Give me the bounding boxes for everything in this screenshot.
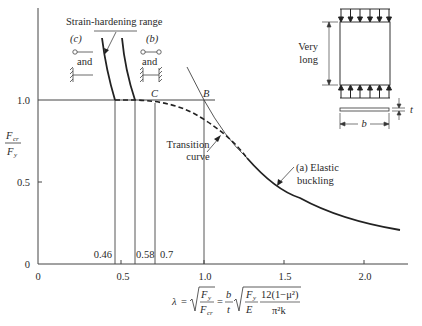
case-c-label: (c) — [70, 33, 82, 45]
x-tick-label-2: 2.0 — [358, 271, 371, 282]
svg-text:F: F — [6, 146, 14, 157]
case-c-and: and — [77, 56, 93, 67]
svg-text:y: y — [13, 151, 18, 159]
transition-label-line2: curve — [186, 151, 210, 162]
width-label: b — [361, 118, 366, 129]
marker-label-0-46: 0.46 — [94, 249, 112, 260]
y-tick-label-1: 1.0 — [17, 95, 30, 106]
x-tick-label-1-5: 1.5 — [278, 271, 291, 282]
svg-text:F: F — [200, 289, 208, 300]
elastic-label-line2: buckling — [297, 175, 334, 186]
y-tick-label-0: 0 — [25, 259, 30, 270]
svg-text:E: E — [245, 304, 253, 315]
load-arrows-top-icon — [339, 9, 392, 22]
svg-text:π²k: π²k — [272, 305, 286, 316]
elastic-label-line1: (a) Elastic — [296, 162, 339, 174]
svg-text:12(1−μ²): 12(1−μ²) — [261, 289, 299, 301]
svg-text:F: F — [245, 289, 253, 300]
x-tick-label-1: 1.0 — [198, 271, 211, 282]
svg-text:λ: λ — [171, 296, 177, 307]
case-b-and: and — [142, 56, 158, 67]
x-tick-label-0: 0 — [35, 271, 40, 282]
transition-label-line1: Transition — [167, 139, 211, 150]
svg-text:F: F — [5, 130, 13, 141]
x-axis-formula: λ = F y F cr = b t F y E 12(1−μ²) π²k — [171, 287, 301, 317]
svg-text:t: t — [227, 304, 231, 315]
svg-text:cr: cr — [13, 135, 19, 143]
length-dimension — [322, 22, 338, 85]
svg-text:y: y — [252, 294, 257, 302]
strain-hardening-label: Strain-hardening range — [66, 16, 163, 27]
marker-label-0-7: 0.7 — [160, 249, 173, 260]
marker-label-0-58: 0.58 — [136, 249, 154, 260]
strain-hardening-arrow — [106, 32, 116, 52]
case-b-label: (b) — [146, 33, 159, 45]
strain-hardening-curve-b — [122, 38, 135, 100]
point-c-label: C — [151, 88, 159, 99]
thickness-label: t — [410, 104, 414, 115]
arrow-head-icon — [214, 135, 221, 142]
y-axis-label: F cr F y — [5, 130, 21, 159]
load-arrows-bottom-icon — [339, 85, 392, 98]
elastic-arrow — [279, 167, 294, 183]
svg-text:cr: cr — [207, 309, 213, 317]
length-label-line1: Very — [298, 41, 319, 52]
svg-text:F: F — [199, 304, 207, 315]
x-tick-label-0-5: 0.5 — [116, 271, 129, 282]
svg-text:=: = — [217, 296, 223, 307]
thickness-dimension — [392, 98, 405, 120]
svg-text:b: b — [226, 289, 231, 300]
plate-inset — [340, 9, 390, 111]
svg-text:y: y — [207, 294, 212, 302]
y-tick-label-0-5: 0.5 — [17, 177, 30, 188]
length-label-line2: long — [299, 54, 318, 65]
point-b-label: B — [203, 88, 210, 99]
plate-buckling-diagram: 1.0 0.5 0 0 0.5 1.0 1.5 2.0 F cr F y 0.4… — [0, 0, 422, 326]
svg-text:=: = — [181, 296, 187, 307]
